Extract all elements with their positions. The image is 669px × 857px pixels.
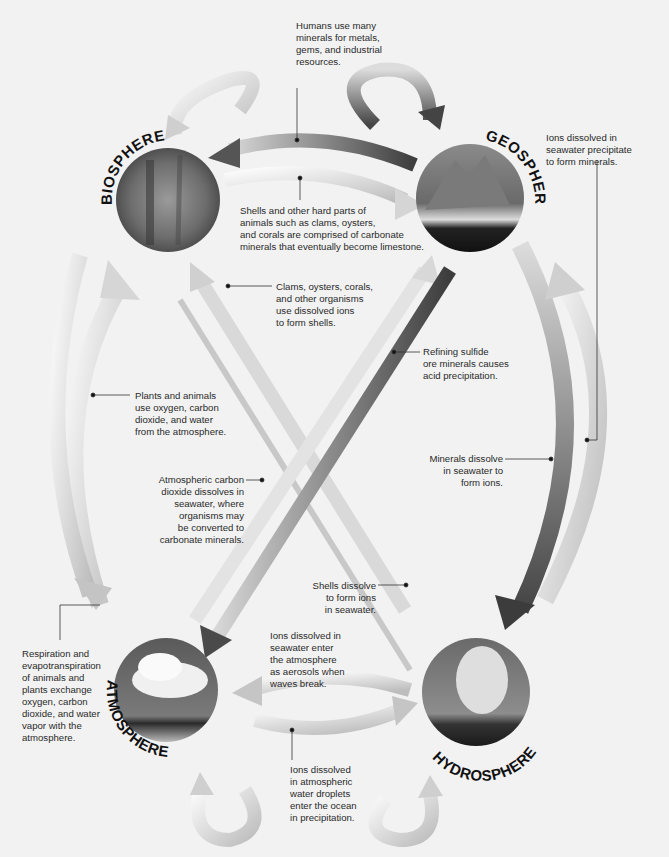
hydrosphere-sphere (422, 638, 530, 746)
note-shells-dissolve: Shells dissolve to form ions in seawater… (290, 580, 376, 616)
loop-hydrosphere (375, 775, 443, 840)
loop-biosphere (165, 78, 253, 140)
note-carbon-dissolves: Atmospheric carbon dioxide dissolves in … (140, 474, 244, 546)
note-ions-precipitate: Ions dissolved in seawater precipitate t… (546, 132, 632, 168)
note-respiration: Respiration and evapotranspiration of an… (22, 648, 101, 744)
note-ions-aerosols: Ions dissolved in seawater enter the atm… (270, 630, 345, 690)
loop-geosphere (354, 70, 445, 130)
note-plants-animals: Plants and animals use oxygen, carbon di… (135, 390, 226, 438)
note-clams-shells: Clams, oysters, corals, and other organi… (276, 281, 373, 329)
arrow-atmosphere-to-hydrosphere (255, 696, 418, 728)
arrow-geosphere-to-biosphere (208, 138, 415, 168)
note-minerals-dissolve: Minerals dissolve in seawater to form io… (420, 453, 503, 489)
note-ions-droplets: Ions dissolved in atmospheric water drop… (290, 764, 357, 824)
biosphere-sphere (116, 148, 220, 252)
loop-atmosphere (190, 772, 255, 840)
note-humans-minerals: Humans use many minerals for metals, gem… (296, 20, 382, 68)
note-refining-sulfide: Refining sulfide ore minerals causes aci… (423, 346, 509, 382)
note-shells-limestone: Shells and other hard parts of animals s… (240, 205, 424, 253)
geosphere-sphere (416, 144, 524, 252)
hydrosphere-label: HYDROSPHERE (430, 743, 540, 784)
